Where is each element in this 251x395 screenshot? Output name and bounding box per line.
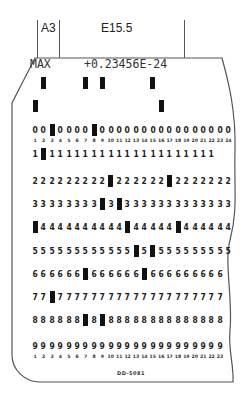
digit-cell: 0 (217, 124, 224, 136)
digit-cell: 3 (133, 198, 140, 210)
column-number: 4 (56, 138, 64, 144)
digit-cell: 3 (200, 198, 207, 210)
digit-cell: 2 (217, 175, 224, 187)
digit-cell: 3 (74, 198, 81, 210)
column-number: 17 (165, 138, 173, 144)
digit-cell: 7 (40, 291, 47, 303)
column-number: 6 (73, 354, 81, 360)
digit-cell: 4 (200, 221, 207, 233)
digit-cell: 5 (99, 245, 106, 257)
digit-cell: 5 (82, 245, 89, 257)
column-number: 15 (149, 138, 157, 144)
column-number: 12 (123, 354, 131, 360)
column-number: 4 (56, 354, 64, 360)
digit-cell: 6 (49, 268, 56, 280)
digit-cell: 0 (158, 124, 165, 136)
digit-cell: 5 (208, 245, 215, 257)
digit-cell: 7 (166, 291, 173, 303)
digit-cell: 1 (175, 148, 182, 160)
digit-cell: 1 (133, 148, 140, 160)
digit-cell: 3 (107, 198, 114, 210)
digit-cell: 4 (158, 221, 165, 233)
digit-cell: 8 (49, 314, 56, 326)
digit-cell: 1 (124, 148, 131, 160)
column-number: 5 (65, 354, 73, 360)
digit-cell: 8 (107, 314, 114, 326)
punched-hole (159, 100, 164, 112)
punched-hole (142, 268, 147, 280)
digit-cell: 6 (99, 268, 106, 280)
digit-cell: 9 (149, 340, 156, 352)
digit-cell: 7 (158, 291, 165, 303)
digit-cell: 6 (32, 268, 39, 280)
column-number: 21 (199, 138, 207, 144)
digit-cell: 2 (149, 175, 156, 187)
digit-cell: 2 (191, 175, 198, 187)
digit-cell: 5 (191, 245, 198, 257)
digit-cell: 8 (32, 314, 39, 326)
digit-cell: 0 (175, 124, 182, 136)
digit-cell: 0 (116, 124, 123, 136)
column-number: 16 (157, 354, 165, 360)
column-number: 22 (207, 138, 215, 144)
digit-cell: 9 (57, 340, 64, 352)
digit-cell: 6 (116, 268, 123, 280)
digit-cell: 0 (124, 124, 131, 136)
column-number: 18 (174, 354, 182, 360)
form-number: DD-5081 (117, 370, 145, 376)
digit-cell: 1 (166, 148, 173, 160)
punched-hole (50, 124, 55, 136)
digit-cell: 0 (191, 124, 198, 136)
digit-cell: 7 (116, 291, 123, 303)
punch-card: A3 E15.5 MAX +0.23456E-24 00000000000000… (0, 0, 251, 395)
digit-cell: 6 (65, 268, 72, 280)
digit-cell: 8 (149, 314, 156, 326)
digit-cell: 1 (57, 148, 64, 160)
digit-cell: 4 (191, 221, 198, 233)
column-number: 9 (98, 138, 106, 144)
digit-cell: 5 (32, 245, 39, 257)
digit-cell: 1 (183, 148, 190, 160)
digit-cell: 0 (74, 124, 81, 136)
digit-cell: 4 (183, 221, 190, 233)
punched-hole (33, 221, 38, 233)
punched-hole (83, 268, 88, 280)
digit-cell: 2 (158, 175, 165, 187)
digit-cell: 5 (225, 245, 232, 257)
digit-cell: 9 (99, 340, 106, 352)
digit-cell: 9 (124, 340, 131, 352)
digit-cell: 6 (175, 268, 182, 280)
digit-cell: 4 (149, 221, 156, 233)
digit-cell: 9 (158, 340, 165, 352)
digit-cell: 7 (65, 291, 72, 303)
column-number: 2 (39, 354, 47, 360)
digit-cell: 8 (91, 314, 98, 326)
digit-cell: 7 (141, 291, 148, 303)
card-title-value: +0.23456E-24 (84, 57, 167, 71)
column-number: 14 (140, 138, 148, 144)
digit-cell: 8 (57, 314, 64, 326)
digit-cell: 9 (133, 340, 140, 352)
punched-hole (33, 100, 38, 112)
digit-cell: 3 (208, 198, 215, 210)
digit-cell: 6 (74, 268, 81, 280)
digit-cell: 0 (200, 124, 207, 136)
digit-cell: 9 (82, 340, 89, 352)
column-number: 6 (73, 138, 81, 144)
digit-cell: 4 (49, 221, 56, 233)
punched-hole (150, 245, 155, 257)
digit-cell: 0 (40, 124, 47, 136)
digit-cell: 1 (141, 148, 148, 160)
digit-cell: 1 (74, 148, 81, 160)
digit-cell: 2 (225, 175, 232, 187)
digit-cell: 0 (65, 124, 72, 136)
digit-cell: 8 (133, 314, 140, 326)
digit-cell: 7 (183, 291, 190, 303)
digit-cell: 6 (191, 268, 198, 280)
digit-cell: 3 (217, 198, 224, 210)
column-number: 8 (90, 354, 98, 360)
digit-cell: 9 (65, 340, 72, 352)
digit-cell: 9 (200, 340, 207, 352)
header-divider (37, 20, 38, 58)
digit-cell: 3 (183, 198, 190, 210)
